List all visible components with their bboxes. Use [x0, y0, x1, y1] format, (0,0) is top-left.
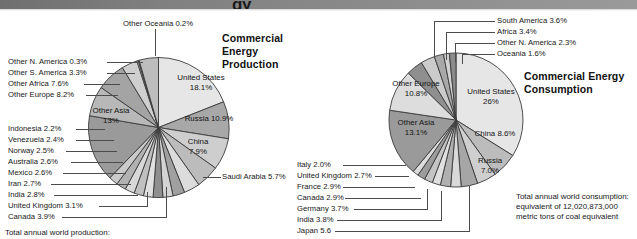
- consumption-label-japan: Japan 5.6: [297, 226, 331, 236]
- consumption-label-germany: Germany 3.7%: [297, 204, 349, 214]
- leader-other-n-america: [455, 43, 495, 44]
- production-label-mexico: Mexico 2.6%: [8, 168, 52, 178]
- leader-japan: [335, 231, 469, 232]
- production-label-other-oceania: Other Oceania 0.2%: [123, 19, 193, 29]
- leader-other-oceania: [155, 29, 156, 56]
- production-label-china-line2: 7.9%: [178, 147, 218, 157]
- production-label-norway: Norway 2.5%: [8, 146, 54, 156]
- leader-uk: [375, 176, 409, 177]
- leader-other-n-america-v: [455, 43, 456, 62]
- leader-germany: [354, 209, 427, 210]
- production-label-india: India 2.8%: [8, 190, 45, 200]
- production-label-united-states-line2: 18.1%: [170, 83, 232, 93]
- banner-shadow: [0, 9, 637, 11]
- leader-france: [343, 187, 415, 188]
- leader-canada-v: [166, 187, 167, 218]
- consumption-label-united-kingdom: United Kingdom 2.7%: [297, 171, 372, 181]
- consumption-label-africa: Africa 3.4%: [497, 27, 537, 37]
- production-label-other-n-america: Other N. America 0.3%: [8, 57, 87, 67]
- production-label-other-asia-line1: Other Asia: [85, 106, 137, 116]
- leader-canada: [62, 217, 166, 218]
- production-label-other-africa: Other Africa 7.6%: [8, 79, 69, 89]
- consumption-label-other-asia-line1: Other Asia: [389, 118, 443, 128]
- production-label-china-line1: China: [178, 137, 218, 147]
- consumption-label-china: China 8.6%: [467, 129, 523, 139]
- leader-italy: [343, 165, 406, 166]
- production-label-united-states-line1: United States: [170, 73, 232, 83]
- leader-india-v: [441, 191, 442, 221]
- consumption-label-united-states: United States 26%: [460, 87, 522, 107]
- banner-clipped-title: gy: [232, 0, 278, 9]
- leader-oceania-v: [462, 54, 463, 64]
- leader-other-europe: [86, 95, 118, 96]
- page-banner: [0, 0, 637, 9]
- consumption-label-united-states-line1: United States: [460, 87, 522, 97]
- consumption-label-italy: Italy 2.0%: [297, 160, 331, 170]
- consumption-label-south-america: South America 3.6%: [497, 16, 567, 26]
- consumption-label-other-n-america: Other N. America 2.3%: [497, 38, 576, 48]
- production-label-other-europe: Other Europe 8.2%: [8, 90, 74, 100]
- leader-africa: [446, 32, 495, 33]
- leader-other-n-america: [107, 62, 143, 63]
- consumption-label-oceania: Oceania 1.6%: [497, 49, 546, 59]
- leader-saudi-arabia: [203, 177, 221, 178]
- leader-venezuela: [76, 140, 114, 141]
- leader-japan-v: [469, 186, 470, 232]
- leader-indonesia: [76, 129, 105, 130]
- consumption-label-united-states-line2: 26%: [460, 97, 522, 107]
- leader-india-c: [337, 220, 441, 221]
- production-label-indonesia: Indonesia 2.2%: [8, 124, 61, 134]
- leader-canada-c: [345, 198, 421, 199]
- production-label-china: China 7.9%: [178, 137, 218, 157]
- leader-india: [54, 195, 138, 196]
- consumption-label-russia-line2: 7.0%: [470, 166, 510, 176]
- leader-norway: [66, 151, 117, 152]
- production-label-other-asia-line2: 13%: [85, 116, 137, 126]
- leader-south-america-v: [434, 21, 435, 56]
- leader-other-s-america: [107, 73, 135, 74]
- consumption-label-other-asia: Other Asia 13.1%: [389, 118, 443, 138]
- leader-germany-v: [427, 189, 428, 210]
- leader-africa-v: [446, 32, 447, 60]
- production-label-venezuela: Venezuela 2.4%: [8, 135, 64, 145]
- leader-united-kingdom-v: [147, 192, 148, 207]
- production-title-line2: Production: [222, 58, 322, 71]
- consumption-label-india: India 3.8%: [297, 215, 334, 225]
- production-label-russia: Russia 10.9%: [178, 114, 240, 124]
- production-footnote: Total annual world production:: [5, 228, 110, 238]
- consumption-title: Commercial Energy Consumption: [524, 70, 634, 96]
- production-label-united-states: United States 18.1%: [170, 73, 232, 93]
- production-label-other-asia: Other Asia 13%: [85, 106, 137, 126]
- consumption-label-canada: Canada 2.9%: [297, 193, 344, 203]
- consumption-label-other-asia-line2: 13.1%: [389, 128, 443, 138]
- consumption-label-other-europe: Other Europe 10.8%: [385, 79, 447, 99]
- production-label-saudi-arabia: Saudi Arabia 5.7%: [222, 172, 286, 182]
- production-title-line1: Commercial Energy: [222, 32, 322, 58]
- leader-other-africa: [84, 84, 120, 85]
- consumption-title-line1: Commercial Energy: [524, 70, 634, 83]
- consumption-footnote: Total annual world consumption: equivale…: [516, 192, 629, 223]
- consumption-label-other-europe-line2: 10.8%: [385, 89, 447, 99]
- consumption-label-russia-line1: Russia: [470, 156, 510, 166]
- leader-south-america: [434, 21, 495, 22]
- leader-oceania: [462, 54, 495, 55]
- leader-iran: [51, 184, 131, 185]
- consumption-label-russia: Russia 7.0%: [470, 156, 510, 176]
- production-label-canada: Canada 3.9%: [8, 212, 55, 222]
- production-label-iran: Iran 2.7%: [8, 179, 41, 189]
- leader-mexico: [63, 173, 126, 174]
- production-label-united-kingdom: United Kingdom 3.1%: [8, 201, 83, 211]
- consumption-title-line2: Consumption: [524, 83, 634, 96]
- leader-united-kingdom: [99, 206, 147, 207]
- consumption-label-other-europe-line1: Other Europe: [385, 79, 447, 89]
- production-title: Commercial Energy Production: [222, 32, 322, 71]
- energy-pie-charts-page: gy: [0, 0, 637, 239]
- production-label-australia: Australia 2.6%: [8, 157, 58, 167]
- leader-australia: [71, 162, 123, 163]
- production-label-other-s-america: Other S. America 3.3%: [8, 68, 87, 78]
- consumption-label-france: France 2.9%: [297, 182, 341, 192]
